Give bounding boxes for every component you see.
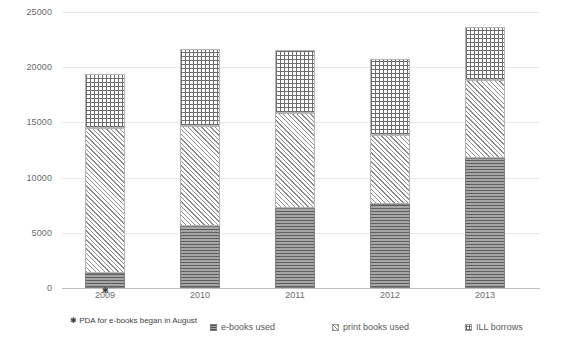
bar-group-2012	[370, 59, 410, 288]
bar-segment-2012-ebooks[interactable]	[370, 204, 410, 288]
bar-group-2011	[275, 50, 315, 288]
bar-group-2010	[180, 49, 220, 288]
bar-segment-2013-print[interactable]	[465, 80, 505, 158]
y-axis-tick-20000: 20000	[0, 62, 52, 72]
y-axis-tick-10000: 10000	[0, 173, 52, 183]
gridline-25000	[62, 12, 540, 13]
bar-segment-2011-ebooks[interactable]	[275, 208, 315, 288]
y-axis-tick-25000: 25000	[0, 7, 52, 17]
legend-label-ebooks: e-books used	[221, 322, 275, 332]
y-axis-tick-0: 0	[0, 283, 52, 293]
x-axis-tick-2011: 2011	[265, 290, 325, 300]
legend-label-print: print books used	[343, 322, 409, 332]
stacked-bar-chart: 25000 20000 15000 10000 5000 0 2009 2010…	[0, 0, 563, 338]
x-axis-tick-2013: 2013	[455, 290, 515, 300]
bar-segment-2011-print[interactable]	[275, 113, 315, 208]
bar-segment-2013-ebooks[interactable]	[465, 158, 505, 288]
x-axis-tick-2012: 2012	[360, 290, 420, 300]
bar-segment-2009-print[interactable]	[85, 128, 125, 273]
legend-label-ill: ILL borrows	[476, 322, 523, 332]
y-axis-labels: 25000 20000 15000 10000 5000 0	[0, 12, 56, 288]
y-axis-tick-15000: 15000	[0, 117, 52, 127]
legend-swatch-print-icon	[332, 324, 339, 331]
legend-swatch-ill-icon	[465, 324, 472, 331]
bar-group-2013	[465, 27, 505, 288]
legend-item-print[interactable]: print books used	[332, 322, 409, 332]
plot-area	[62, 12, 540, 288]
bar-segment-2012-print[interactable]	[370, 135, 410, 204]
bar-segment-2010-ebooks[interactable]	[180, 226, 220, 288]
bar-segment-2010-print[interactable]	[180, 126, 220, 226]
bar-segment-2009-ill[interactable]	[85, 74, 125, 128]
legend-item-ill[interactable]: ILL borrows	[465, 322, 523, 332]
x-axis-labels: 2009 2010 2011 2012 2013	[62, 290, 540, 306]
bar-segment-2011-ill[interactable]	[275, 50, 315, 113]
pda-asterisk-marker: ✱	[102, 287, 109, 295]
chart-footnote: ✱ PDA for e-books began in August	[70, 316, 197, 325]
bar-segment-2012-ill[interactable]	[370, 59, 410, 135]
bar-group-2009	[85, 74, 125, 288]
chart-legend: e-books used print books used ILL borrow…	[210, 322, 550, 336]
bar-segment-2010-ill[interactable]	[180, 49, 220, 126]
y-axis-tick-5000: 5000	[0, 228, 52, 238]
legend-item-ebooks[interactable]: e-books used	[210, 322, 275, 332]
legend-swatch-ebooks-icon	[210, 324, 217, 331]
x-axis-tick-2010: 2010	[170, 290, 230, 300]
bar-segment-2013-ill[interactable]	[465, 27, 505, 80]
